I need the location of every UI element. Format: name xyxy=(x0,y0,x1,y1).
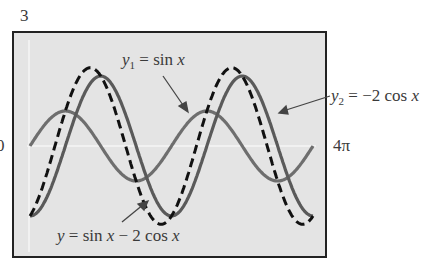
x-max-label: 4π xyxy=(333,136,350,156)
y2-label: y2 = −2 cos x xyxy=(331,86,419,107)
y1-label: y1 = sin x xyxy=(122,50,185,71)
y-max-label: 3 xyxy=(20,6,29,26)
chart-canvas xyxy=(0,0,441,262)
sum-label: y = sin x − 2 cos x xyxy=(57,226,180,246)
x-min-label: 0 xyxy=(0,136,5,156)
